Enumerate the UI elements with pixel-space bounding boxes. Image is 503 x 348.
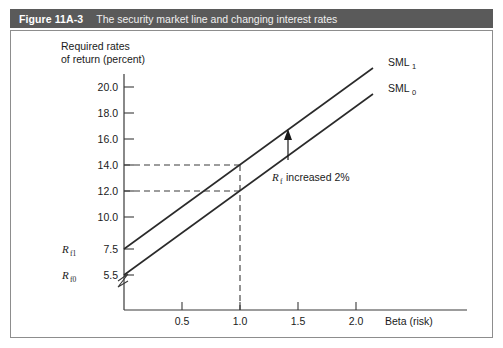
y-tick-label-18: 18.0 — [98, 107, 119, 119]
sml1-label: SML 1 — [388, 56, 416, 71]
chart-canvas: Required rates of return (percent) 20.0 … — [0, 0, 503, 348]
rf0-sub: f0 — [70, 275, 76, 284]
rf0-base: R — [61, 269, 69, 281]
rf1-axis-label: R f1 — [61, 243, 76, 258]
sml1-line — [124, 68, 373, 249]
x-tick-label-2-0: 2.0 — [349, 315, 364, 327]
rf-increase-arrow-icon — [284, 129, 292, 160]
y-tick-label-16: 16.0 — [98, 133, 119, 145]
y-tick-label-20: 20.0 — [98, 81, 119, 93]
x-tick-label-1-5: 1.5 — [291, 315, 306, 327]
y-tick-label-12: 12.0 — [98, 185, 119, 197]
y-tick-label-7-5: 7.5 — [103, 243, 118, 255]
y-axis-break-icon — [118, 274, 128, 287]
x-axis-title: Beta (risk) — [385, 315, 433, 327]
sml0-label: SML 0 — [388, 82, 416, 97]
rf-increase-note: R f increased 2% — [271, 171, 350, 186]
sml0-label-base: SML — [388, 82, 410, 94]
rf1-sub: f1 — [70, 249, 76, 258]
rf-note-text: increased 2% — [286, 171, 350, 183]
x-tick-label-0-5: 0.5 — [175, 315, 190, 327]
rf-note-base: R — [271, 171, 279, 183]
y-axis-title-line1: Required rates — [61, 40, 130, 52]
sml1-label-sub: 1 — [412, 62, 416, 71]
rf1-base: R — [61, 243, 69, 255]
rf-note-sub: f — [280, 177, 283, 186]
y-tick-label-5-5: 5.5 — [103, 269, 118, 281]
y-axis-ticks — [124, 87, 134, 275]
y-axis-title-line2: of return (percent) — [61, 53, 145, 65]
sml1-label-base: SML — [388, 56, 410, 68]
figure-container: Figure 11A-3 The security market line an… — [0, 0, 503, 348]
rf0-axis-label: R f0 — [61, 269, 76, 284]
x-tick-label-1-0: 1.0 — [233, 315, 248, 327]
y-tick-label-14: 14.0 — [98, 159, 119, 171]
y-tick-label-10: 10.0 — [98, 211, 119, 223]
sml0-label-sub: 0 — [412, 88, 416, 97]
sml0-line — [124, 94, 373, 275]
x-axis-ticks — [182, 302, 356, 310]
